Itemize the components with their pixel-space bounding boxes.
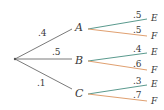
leaf-B-E: E [151,48,158,57]
node-C: C [75,88,83,99]
node-A: A [75,22,83,33]
prob-C-F: .7 [133,91,142,100]
prob-B-F: .6 [133,60,142,69]
prob-A-F: .5 [133,26,142,35]
prob-B: .5 [52,48,61,57]
leaf-A-E: E [151,14,158,23]
root-node [14,58,16,60]
prob-A-E: .5 [133,11,142,20]
leaf-B-F: F [151,66,157,75]
leaf-C-E: E [151,80,158,89]
prob-C: .1 [37,79,46,88]
probability-tree-diagram: .4 .5 .1 A B C .5 .5 E F .4 .6 E F .3 .7… [0,0,164,110]
leaf-C-F: F [151,97,157,106]
prob-B-E: .4 [133,45,142,54]
prob-C-E: .3 [133,77,142,86]
leaf-A-F: F [151,32,157,41]
node-B: B [75,55,83,66]
prob-A: .4 [38,29,47,38]
